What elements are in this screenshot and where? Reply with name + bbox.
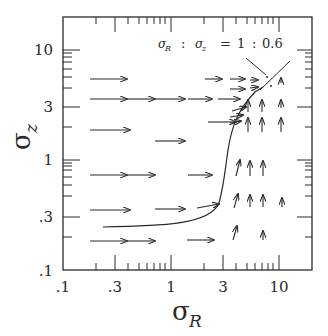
svg-text:1: 1 bbox=[237, 36, 245, 51]
svg-text:z: z bbox=[21, 123, 41, 134]
x-tick-label: 1 bbox=[166, 278, 176, 296]
svg-text:=: = bbox=[220, 36, 231, 51]
svg-text:0.6: 0.6 bbox=[262, 36, 283, 51]
x-tick-label: .3 bbox=[108, 278, 122, 296]
svg-text:R: R bbox=[164, 44, 171, 53]
y-tick-label: 10 bbox=[34, 41, 53, 59]
horizontal-arrows bbox=[90, 79, 258, 241]
svg-text:z: z bbox=[201, 44, 207, 53]
ratio-annotation: σ R : σ z = 1 : 0.6 bbox=[158, 36, 283, 53]
svg-text:σ: σ bbox=[6, 132, 36, 150]
svg-text:σ: σ bbox=[172, 296, 190, 326]
y-tick-label: .1 bbox=[39, 262, 53, 280]
y-tick-label: 1 bbox=[43, 151, 53, 169]
flow-chart: 10 3 1 .3 .1 .1 .3 1 3 10 σ R σ z σ R : … bbox=[0, 0, 328, 336]
svg-text::: : bbox=[252, 36, 256, 51]
y-tick-label: 3 bbox=[43, 98, 53, 116]
ratio-line bbox=[260, 61, 290, 90]
x-tick-label: 10 bbox=[269, 278, 288, 296]
vertical-arrows bbox=[233, 78, 282, 240]
x-axis-ticks bbox=[96, 17, 279, 270]
x-axis-title: σ R bbox=[172, 296, 202, 331]
annotation-pointer bbox=[246, 58, 266, 75]
svg-text::: : bbox=[181, 36, 185, 51]
trajectory-curve bbox=[103, 87, 263, 227]
plot-frame bbox=[63, 17, 312, 270]
svg-text:R: R bbox=[188, 311, 202, 331]
x-tick-label: 3 bbox=[218, 278, 228, 296]
x-tick-label: .1 bbox=[56, 278, 70, 296]
y-axis-ticks bbox=[63, 50, 312, 237]
y-tick-label: .3 bbox=[39, 208, 53, 226]
y-axis-title: σ z bbox=[6, 123, 41, 150]
